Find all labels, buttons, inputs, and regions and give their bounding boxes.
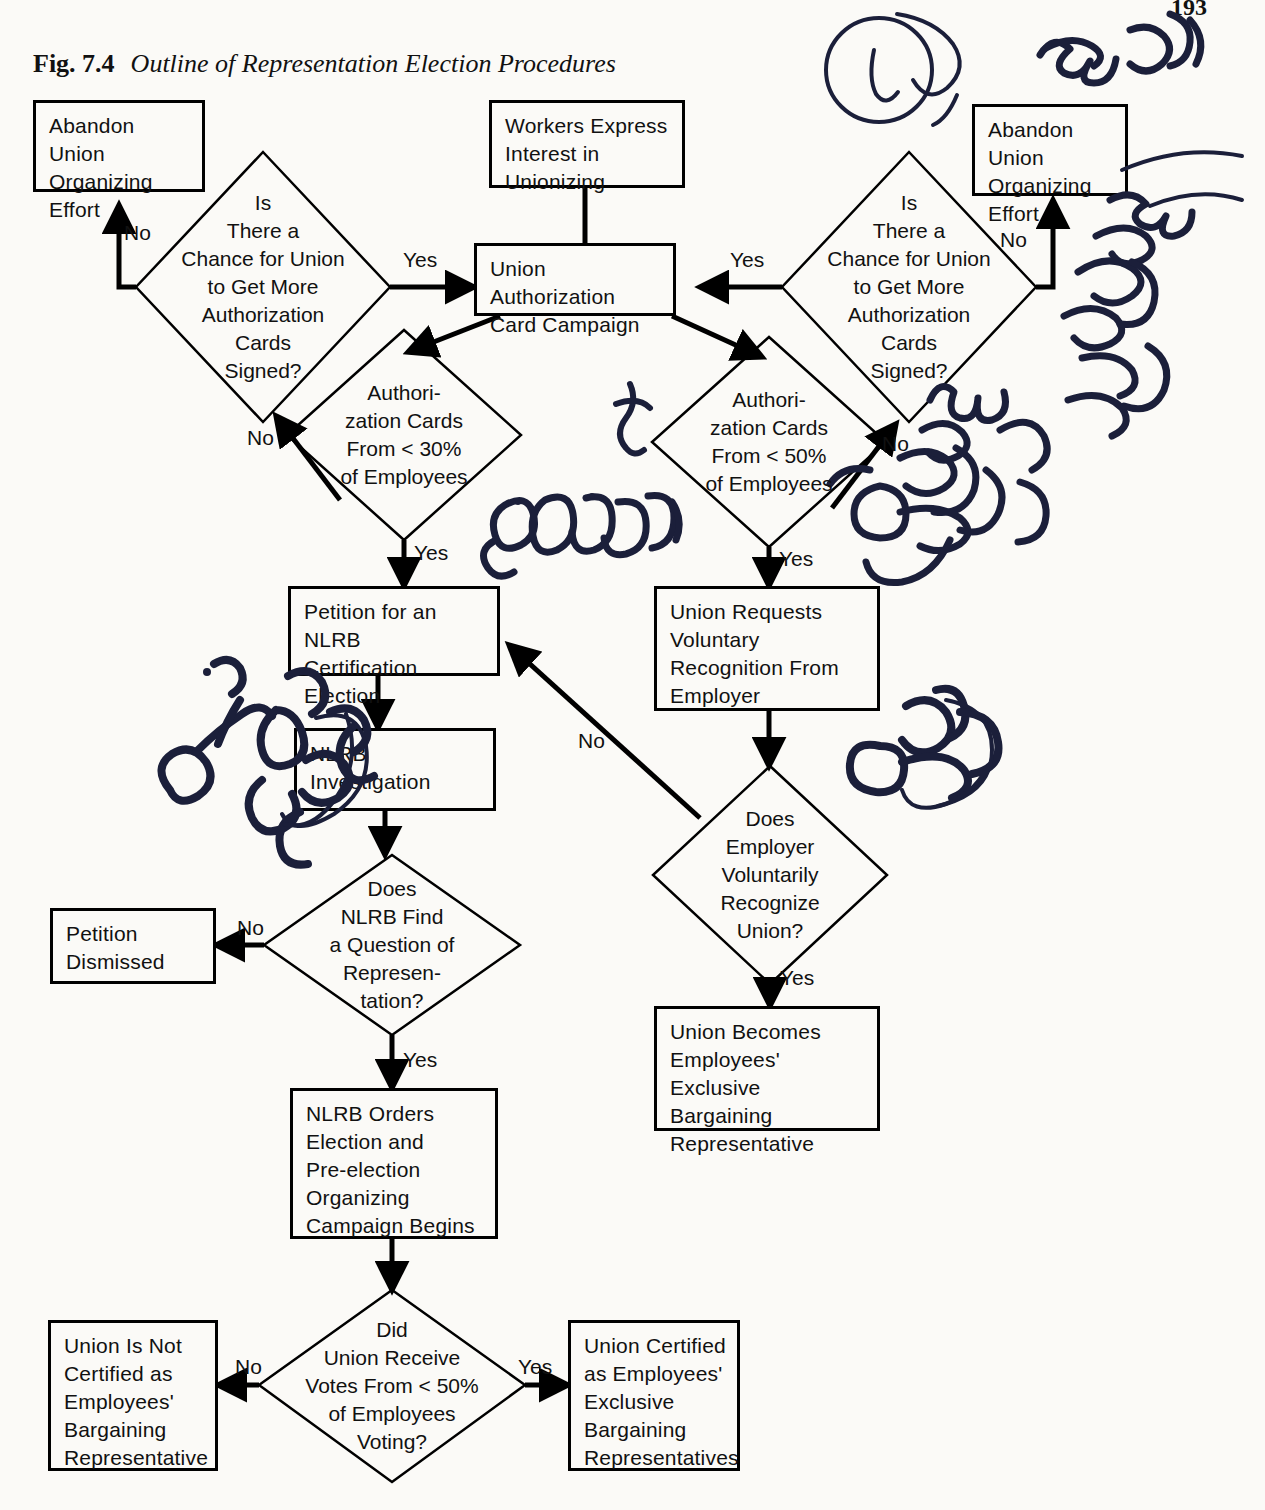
node-label: NLRB Orders Election and Pre-election Or… [306, 1100, 475, 1240]
node-label: NLRB Investigation [310, 740, 431, 796]
node-label: Union Requests Voluntary Recognition Fro… [670, 598, 839, 710]
node-workers-express-interest[interactable]: Workers Express Interest in Unionizing [489, 100, 685, 188]
node-label: Authori- zation Cards From < 30% of Empl… [340, 379, 467, 491]
node-union-becomes-exclusive-representative[interactable]: Union Becomes Employees' Exclusive Barga… [654, 1006, 880, 1131]
node-union-requests-voluntary-recognition[interactable]: Union Requests Voluntary Recognition Fro… [654, 586, 880, 711]
node-label: Authori- zation Cards From < 50% of Empl… [705, 386, 832, 498]
node-label: Union Becomes Employees' Exclusive Barga… [670, 1018, 867, 1158]
edge-label-no-nlrbfind: No [237, 917, 264, 939]
node-label: Petition Dismissed [66, 920, 165, 976]
node-petition-dismissed[interactable]: Petition Dismissed [50, 908, 216, 984]
edge-label-no-cards30: No [247, 427, 274, 449]
edge-label-no-cards50: No [882, 433, 909, 455]
node-union-authorization-card-campaign[interactable]: Union Authorization Card Campaign [474, 243, 676, 316]
node-nlrb-investigation[interactable]: NLRB Investigation [294, 728, 496, 811]
node-label: Did Union Receive Votes From < 50% of Em… [305, 1316, 478, 1456]
edge-label-yes-votes: Yes [518, 1356, 552, 1378]
node-union-not-certified[interactable]: Union Is Not Certified as Employees' Bar… [48, 1320, 218, 1471]
node-label: Union Is Not Certified as Employees' Bar… [64, 1332, 208, 1472]
node-union-certified[interactable]: Union Certified as Employees' Exclusive … [568, 1320, 740, 1471]
edge-label-yes-chance-right: Yes [730, 249, 764, 271]
edge-label-no-employer: No [578, 730, 605, 752]
node-petition-for-nlrb-certification-election[interactable]: Petition for an NLRB Certification Elect… [288, 586, 500, 676]
node-label: Is There a Chance for Union to Get More … [827, 189, 990, 385]
figure-page: 193 Fig. 7.4Outline of Representation El… [0, 0, 1265, 1510]
node-does-nlrb-find-question-of-representation[interactable]: Does NLRB Find a Question of Represen- t… [264, 855, 520, 1035]
edge-label-yes-cards50: Yes [779, 548, 813, 570]
node-label: Union Certified as Employees' Exclusive … [584, 1332, 739, 1472]
node-does-employer-voluntarily-recognize[interactable]: Does Employer Voluntarily Recognize Unio… [653, 766, 887, 984]
node-label: Union Authorization Card Campaign [490, 255, 663, 339]
edge-label-no-votes: No [235, 1356, 262, 1378]
node-label: Does NLRB Find a Question of Represen- t… [330, 875, 455, 1015]
node-label: Does Employer Voluntarily Recognize Unio… [720, 805, 819, 945]
edge-label-yes-employer: Yes [780, 967, 814, 989]
node-label: Is There a Chance for Union to Get More … [181, 189, 344, 385]
node-did-union-receive-votes[interactable]: Did Union Receive Votes From < 50% of Em… [259, 1290, 525, 1482]
node-label: Workers Express Interest in Unionizing [505, 112, 667, 196]
edge-label-yes-cards30: Yes [414, 542, 448, 564]
edge-label-yes-chance-left: Yes [403, 249, 437, 271]
edge-label-no-chance-right: No [1000, 229, 1027, 251]
edge-label-yes-nlrbfind: Yes [403, 1049, 437, 1071]
node-label: Petition for an NLRB Certification Elect… [304, 598, 487, 710]
edge-label-no-chance-left: No [124, 222, 151, 244]
node-nlrb-orders-election[interactable]: NLRB Orders Election and Pre-election Or… [290, 1088, 498, 1239]
